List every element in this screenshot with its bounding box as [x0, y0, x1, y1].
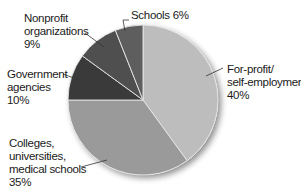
label-colleges: Colleges, universities, medical schools … [9, 137, 86, 189]
label-schools: Schools 6% [131, 9, 189, 22]
label-forprofit: For-profit/ self-employment 40% [227, 63, 301, 102]
label-nonprofit: Nonprofit organizations 9% [24, 12, 89, 51]
pie-slices [68, 25, 218, 175]
label-government: Government agencies 10% [7, 68, 67, 107]
